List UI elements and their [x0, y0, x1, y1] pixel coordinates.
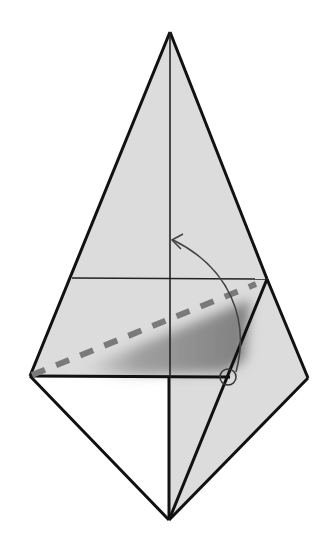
origami-diagram — [0, 0, 330, 542]
upper-triangle-fill — [30, 32, 308, 378]
